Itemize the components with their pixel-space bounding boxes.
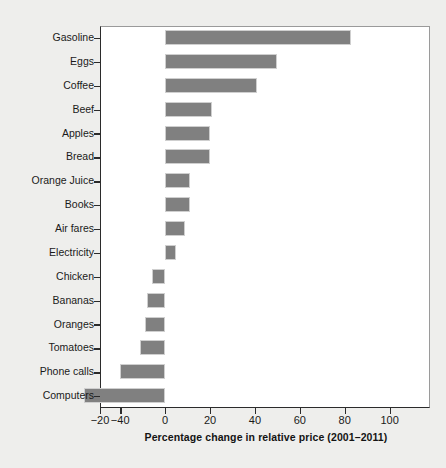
bar	[165, 78, 257, 93]
y-axis-label-computers: Computers	[0, 384, 94, 408]
y-axis-tick	[94, 253, 100, 254]
x-axis-tick-label: 80	[325, 414, 365, 426]
y-axis-label-chicken: Chicken	[0, 265, 94, 289]
y-axis-tick	[94, 301, 100, 302]
bar	[165, 197, 190, 212]
bar	[120, 364, 165, 379]
x-axis-tick-label: −40	[100, 414, 140, 426]
y-axis-tick	[94, 62, 100, 63]
bar	[165, 54, 277, 69]
y-axis-label-beef: Beef	[0, 98, 94, 122]
y-axis-label-coffee: Coffee	[0, 74, 94, 98]
y-axis-tick	[94, 110, 100, 111]
x-axis-tick-label: 100	[370, 414, 410, 426]
y-axis-label-oranges: Oranges	[0, 313, 94, 337]
bar	[165, 173, 190, 188]
bar	[152, 269, 165, 284]
y-axis-tick	[94, 229, 100, 230]
x-axis-tick-label: 0	[145, 414, 185, 426]
y-axis-tick	[94, 38, 100, 39]
bar	[165, 149, 210, 164]
y-axis-tick	[94, 205, 100, 206]
y-axis-label-gasoline: Gasoline	[0, 26, 94, 50]
x-axis-tick-label: 60	[280, 414, 320, 426]
y-axis-tick	[94, 372, 100, 373]
x-axis-title: Percentage change in relative price (200…	[100, 431, 432, 443]
y-axis-label-apples: Apples	[0, 122, 94, 146]
bar	[165, 126, 210, 141]
bar-chart-figure: GasolineEggsCoffeeBeefApplesBreadOrange …	[0, 0, 446, 468]
bar	[145, 317, 165, 332]
y-axis-tick	[94, 86, 100, 87]
bar	[165, 30, 351, 45]
y-axis-label-orange-juice: Orange Juice	[0, 169, 94, 193]
bar	[147, 293, 165, 308]
y-axis-label-bananas: Bananas	[0, 289, 94, 313]
y-axis-tick	[94, 348, 100, 349]
y-axis-tick	[94, 277, 100, 278]
x-axis-tick-label: 20	[190, 414, 230, 426]
y-axis-label-air-fares: Air fares	[0, 217, 94, 241]
y-axis-tick	[94, 324, 100, 325]
bar	[140, 340, 165, 355]
x-axis-tick-label: 40	[235, 414, 275, 426]
y-axis-label-electricity: Electricity	[0, 241, 94, 265]
y-axis-label-tomatoes: Tomatoes	[0, 336, 94, 360]
y-axis-label-bread: Bread	[0, 145, 94, 169]
bar	[165, 102, 212, 117]
bar	[165, 245, 176, 260]
y-axis-tick	[94, 396, 100, 397]
y-axis-label-books: Books	[0, 193, 94, 217]
y-axis-label-phone-calls: Phone calls	[0, 360, 94, 384]
y-axis-tick	[94, 181, 100, 182]
y-axis-tick	[94, 133, 100, 134]
y-axis-label-eggs: Eggs	[0, 50, 94, 74]
y-axis-tick	[94, 157, 100, 158]
bar	[165, 221, 185, 236]
